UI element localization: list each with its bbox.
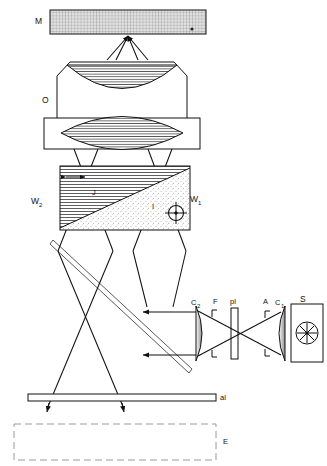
plane-E-group: E <box>14 424 228 460</box>
label-W1: W <box>190 194 198 204</box>
slide-al-bar <box>28 394 216 401</box>
ray-arrows-to-mirror <box>107 36 148 60</box>
mirror-edge-bottom <box>189 369 192 373</box>
plane-E-dashed-rect <box>14 424 216 460</box>
label-M: M <box>35 16 42 26</box>
label-I: I <box>152 202 154 211</box>
arrow-ray-3 <box>128 36 138 60</box>
diagonal-mirror-group <box>50 240 192 373</box>
mirror-M-plate <box>50 10 206 34</box>
filament-center <box>306 332 309 335</box>
label-F: F <box>213 297 218 306</box>
mirror-face-back <box>50 244 189 373</box>
mirror-edge-top <box>50 240 53 244</box>
label-W2-subscript: 2 <box>39 202 43 208</box>
lens-C1 <box>279 306 285 361</box>
label-W1-subscript: 1 <box>198 200 202 206</box>
ray-bundle-below-block <box>47 251 186 412</box>
slide-al-group: al <box>28 393 226 402</box>
label-A: A <box>263 297 268 306</box>
lens-C2 <box>196 306 202 361</box>
beam-cross-a <box>198 311 281 355</box>
crossing-beam <box>198 311 281 356</box>
label-al: al <box>220 393 226 402</box>
mirror-M-speck <box>190 27 193 30</box>
label-S: S <box>300 294 306 304</box>
mirror-M-group: M <box>35 10 206 34</box>
arrow-ray-4 <box>128 36 148 60</box>
ray-down-left-b <box>58 251 124 409</box>
filter-F-marks <box>212 310 217 357</box>
label-W2: W <box>31 196 39 206</box>
ray-down-left-a <box>47 251 113 409</box>
diagram-canvas: M O <box>0 0 327 466</box>
source-S <box>291 304 323 362</box>
plate-pl <box>231 308 238 359</box>
mirror-face-front <box>53 240 192 369</box>
wedge-block-group: W 2 W 1 J I <box>31 166 202 230</box>
optical-train-group: C 2 F pl A C 1 <box>191 294 323 362</box>
ray-down-right-b <box>133 251 147 307</box>
objective-O-group: O <box>42 62 200 150</box>
label-J: J <box>92 188 96 197</box>
label-E: E <box>223 437 228 446</box>
ray-down-right-a <box>173 251 186 307</box>
optical-diagram-figure: M O <box>0 0 327 466</box>
label-C2-subscript: 2 <box>197 303 201 309</box>
label-pl: pl <box>230 297 236 306</box>
label-O: O <box>42 95 49 105</box>
beam-cross-b <box>198 312 281 356</box>
